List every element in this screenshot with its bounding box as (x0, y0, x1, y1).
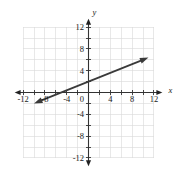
y-tick-label: -4 (77, 109, 85, 119)
y-tick-label: 8 (80, 44, 84, 54)
x-tick-label: -4 (63, 94, 71, 104)
x-tick-label: 4 (108, 94, 113, 104)
x-tick-label: 12 (150, 94, 159, 104)
x-tick-label: 8 (130, 94, 134, 104)
x-tick-label: 0 (80, 94, 84, 104)
y-tick-label: -8 (77, 131, 84, 141)
x-axis-label: x (167, 85, 172, 95)
coordinate-plane-svg: -12-8-404812 1284-4-8-12 x y (0, 0, 177, 180)
x-tick-label: -12 (17, 94, 28, 104)
y-axis-label: y (92, 7, 97, 17)
y-tick-label: -12 (73, 153, 84, 163)
y-tick-label: 12 (76, 22, 85, 32)
coordinate-plane-figure: -12-8-404812 1284-4-8-12 x y (0, 0, 177, 180)
x-tick-label: -8 (41, 94, 48, 104)
